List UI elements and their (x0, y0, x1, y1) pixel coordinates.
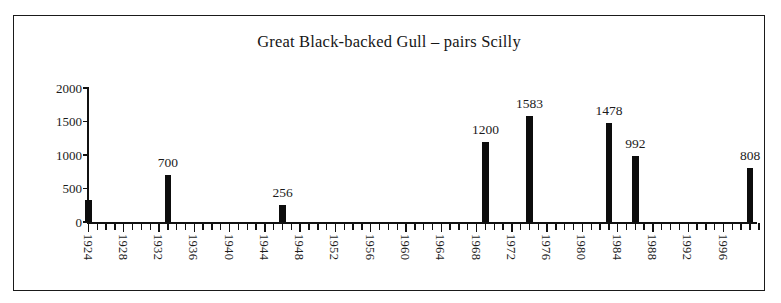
x-axis-tick-label: 1984 (610, 234, 623, 260)
x-axis-tick (441, 223, 442, 232)
chart-frame: Great Black-backed Gull – pairs Scilly 0… (13, 15, 765, 291)
x-axis-tick (608, 223, 609, 230)
x-axis-tick-label: 1944 (257, 234, 270, 260)
bar-value-label: 1478 (584, 104, 634, 118)
x-axis-tick (749, 223, 750, 230)
x-axis-tick-label: 1928 (116, 234, 129, 260)
x-axis-tick (626, 223, 627, 230)
y-axis-tick-label: 0 (76, 216, 83, 229)
bar (482, 142, 489, 222)
x-axis-tick (397, 223, 398, 230)
x-axis-tick (661, 223, 662, 230)
x-axis-tick (591, 223, 592, 230)
bar (85, 200, 92, 222)
bar-value-label: 700 (143, 156, 193, 170)
x-axis-tick (582, 223, 583, 232)
x-axis-tick-label: 1936 (187, 234, 200, 260)
x-axis-tick (379, 223, 380, 230)
x-axis-tick (326, 223, 327, 230)
bar-value-label: 256 (258, 186, 308, 200)
x-axis-tick (564, 223, 565, 230)
x-axis-tick (502, 223, 503, 230)
x-axis-tick (405, 223, 406, 232)
x-axis-tick (105, 223, 106, 230)
x-axis-tick (264, 223, 265, 232)
x-axis-tick (467, 223, 468, 230)
x-axis-tick (123, 223, 124, 232)
x-axis-tick-label: 1968 (469, 234, 482, 260)
x-axis-tick-label: 1988 (645, 234, 658, 260)
x-axis-tick (520, 223, 521, 230)
x-axis-tick (255, 223, 256, 230)
x-axis-tick (238, 223, 239, 230)
y-axis-labels: 0500100015002000 (14, 16, 82, 292)
x-axis-tick (494, 223, 495, 230)
x-axis-tick (423, 223, 424, 230)
plot-area: 0500100015002000 19241928193219361940194… (14, 16, 766, 292)
x-axis-tick (299, 223, 300, 232)
x-axis-tick (652, 223, 653, 232)
bar (526, 116, 533, 222)
x-axis-tick (335, 223, 336, 232)
x-axis-tick-label: 1976 (540, 234, 553, 260)
x-axis-tick (220, 223, 221, 230)
y-axis-tick-label: 1000 (56, 149, 82, 162)
bar-value-label: 1200 (460, 123, 510, 137)
x-axis-tick (758, 223, 759, 230)
x-axis-tick (643, 223, 644, 230)
x-axis-tick (529, 223, 530, 230)
bar (279, 205, 286, 222)
y-axis-tick (83, 87, 89, 89)
x-axis-tick (617, 223, 618, 232)
x-axis-tick-label: 1932 (152, 234, 165, 260)
x-axis-tick (670, 223, 671, 230)
x-axis-tick (247, 223, 248, 230)
x-axis-tick (361, 223, 362, 230)
bar-value-label: 992 (610, 137, 660, 151)
x-axis-tick (714, 223, 715, 230)
x-axis-tick-label: 1996 (716, 234, 729, 260)
x-axis-tick-label: 1980 (575, 234, 588, 260)
y-axis-tick (83, 121, 89, 123)
x-axis-tick (723, 223, 724, 232)
x-axis-tick-label: 1972 (504, 234, 517, 260)
x-axis-tick (194, 223, 195, 232)
x-axis-tick (132, 223, 133, 230)
x-axis-tick (282, 223, 283, 230)
bar-value-label: 1583 (505, 97, 555, 111)
x-axis-tick (291, 223, 292, 230)
x-axis-tick (167, 223, 168, 230)
x-axis-tick (573, 223, 574, 230)
y-axis-tick (83, 188, 89, 190)
x-axis-tick (705, 223, 706, 230)
bar-value-label: 808 (725, 149, 775, 163)
y-axis-tick-label: 500 (63, 182, 83, 195)
x-axis-tick (599, 223, 600, 230)
x-axis-tick (158, 223, 159, 232)
x-axis-tick (141, 223, 142, 230)
y-axis-tick-label: 2000 (56, 82, 82, 95)
x-axis-tick (732, 223, 733, 230)
x-axis-tick-label: 1956 (363, 234, 376, 260)
x-axis-tick-label: 1992 (681, 234, 694, 260)
bar (632, 156, 639, 222)
x-axis-tick (635, 223, 636, 230)
x-axis-tick (546, 223, 547, 232)
x-axis-tick (538, 223, 539, 230)
x-axis-tick (432, 223, 433, 230)
y-axis-tick-label: 1500 (56, 115, 82, 128)
bar (165, 175, 172, 222)
x-axis-tick (344, 223, 345, 230)
x-axis-tick (388, 223, 389, 230)
x-axis-tick (458, 223, 459, 230)
x-axis-tick (511, 223, 512, 232)
x-axis-tick (679, 223, 680, 230)
x-axis-tick (229, 223, 230, 232)
x-axis-tick-label: 1960 (399, 234, 412, 260)
x-axis-tick-label: 1964 (434, 234, 447, 260)
x-axis-tick-label: 1940 (222, 234, 235, 260)
x-axis-tick (688, 223, 689, 232)
x-axis-tick (308, 223, 309, 230)
x-axis-tick (370, 223, 371, 232)
x-axis-tick (211, 223, 212, 230)
